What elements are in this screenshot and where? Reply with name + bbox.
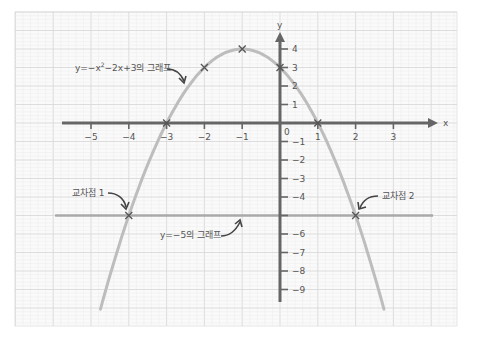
x-tick-label: −2 [198,132,211,142]
x-tick-label: −4 [122,132,136,142]
x-axis-label: x [443,118,449,128]
x-tick-label: −3 [160,132,173,142]
y-tick-label: −3 [292,174,305,184]
x-tick-label: 3 [391,132,397,142]
y-tick-label: −8 [292,266,306,276]
y-tick-label: −7 [292,248,305,258]
x-tick-label: 1 [315,132,321,142]
y-tick-label: 2 [292,81,298,91]
y-tick-label: −6 [292,229,306,239]
y-tick-label: 1 [292,100,298,110]
y-tick-label: 3 [292,63,298,73]
y-tick-label: −2 [292,155,305,165]
y-axis-label: y [277,20,283,30]
y-tick-label: 4 [292,44,298,54]
y-tick-label: −9 [292,285,306,295]
parabola-label: y=−x2−2x+3의 그래프 [75,61,171,73]
intersection1-label: 교차점 1 [72,187,105,198]
y-tick-label: −4 [292,192,306,202]
origin-label: 0 [284,127,290,137]
chart-canvas: xy0−5−4−3−2−11234321−1−2−3−4−6−7−8−9 y=−… [0,0,484,340]
paper-background [15,12,457,326]
intersection2-label: 교차점 2 [382,190,415,201]
x-tick-label: 2 [353,132,359,142]
line-label: y=−5의 그래프 [160,230,221,240]
graph-paper-grid [15,12,457,326]
y-tick-label: −1 [292,137,305,147]
x-tick-label: −1 [236,132,249,142]
x-tick-label: −5 [84,132,97,142]
